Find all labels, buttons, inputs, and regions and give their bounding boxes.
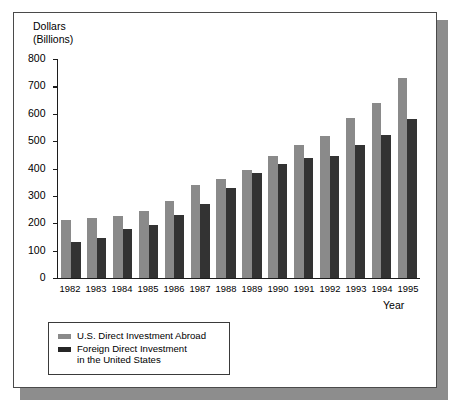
legend-label-series-1: Foreign Direct Investment in the United …: [77, 343, 187, 366]
bar-group-1983: [84, 59, 110, 278]
bar-1982-series-0: [61, 220, 71, 278]
bar-1985-series-0: [139, 211, 149, 278]
bar-1986-series-0: [165, 201, 175, 278]
bar-1982-series-1: [71, 242, 81, 278]
bar-1986-series-1: [174, 215, 184, 279]
y-axis-tick-300: 300: [53, 196, 58, 197]
y-axis-tick-label-100: 100: [28, 244, 46, 256]
x-axis-tick-label-1993: 1993: [343, 283, 369, 294]
plot-area: 0100200300400500600700800: [57, 59, 420, 279]
bar-group-1994: [368, 59, 394, 278]
bar-1987-series-1: [200, 204, 210, 278]
y-axis-tick-700: 700: [53, 86, 58, 87]
y-axis-title: Dollars(Billions): [33, 20, 73, 45]
bar-1985-series-1: [149, 225, 159, 278]
x-axis-tick-labels: 1982198319841985198619871988198919901991…: [57, 283, 421, 294]
y-axis-tick-label-500: 500: [28, 134, 46, 146]
bar-group-1993: [342, 59, 368, 278]
x-axis-tick-label-1983: 1983: [83, 283, 109, 294]
x-axis-tick-label-1994: 1994: [369, 283, 395, 294]
y-axis-tick-0: 0: [53, 278, 58, 279]
bar-1990-series-1: [278, 164, 288, 278]
y-axis-title-line2: (Billions): [33, 33, 73, 45]
x-axis-line: [57, 278, 420, 279]
bar-groups: [58, 59, 420, 278]
y-axis-tick-label-800: 800: [28, 52, 46, 64]
x-axis-tick-label-1984: 1984: [109, 283, 135, 294]
legend-swatch-icon-series-0: [58, 334, 71, 339]
bar-1993-series-0: [346, 118, 356, 278]
bar-1987-series-0: [191, 185, 201, 278]
legend-item-foreign-direct-investment-in-the-united-states: Foreign Direct Investment in the United …: [58, 343, 223, 366]
bar-1983-series-1: [97, 238, 107, 278]
x-axis-tick-label-1990: 1990: [265, 283, 291, 294]
x-axis-tick-label-1982: 1982: [57, 283, 83, 294]
bar-1991-series-1: [304, 158, 314, 278]
y-axis-tick-800: 800: [53, 59, 58, 60]
bar-1984-series-0: [113, 216, 123, 278]
bar-group-1992: [317, 59, 343, 278]
bar-1989-series-0: [242, 170, 252, 278]
y-axis-tick-400: 400: [53, 169, 58, 170]
bar-group-1990: [265, 59, 291, 278]
y-axis-tick-100: 100: [53, 251, 58, 252]
y-axis-tick-200: 200: [53, 223, 58, 224]
bar-1983-series-0: [87, 218, 97, 278]
y-axis-tick-label-400: 400: [28, 162, 46, 174]
y-axis-tick-label-700: 700: [28, 79, 46, 91]
y-axis-tick-600: 600: [53, 114, 58, 115]
bar-group-1987: [187, 59, 213, 278]
legend-label-series-0: U.S. Direct Investment Abroad: [77, 330, 206, 342]
chart-figure: Dollars(Billions) 0100200300400500600700…: [0, 0, 456, 408]
bar-1989-series-1: [252, 173, 262, 278]
y-axis-title-line1: Dollars: [33, 20, 66, 32]
bar-1991-series-0: [294, 145, 304, 278]
y-axis-tick-label-0: 0: [40, 271, 46, 283]
bar-1994-series-1: [381, 135, 391, 278]
y-axis-tick-label-300: 300: [28, 189, 46, 201]
x-axis-tick-label-1992: 1992: [317, 283, 343, 294]
bar-group-1988: [213, 59, 239, 278]
chart-legend: U.S. Direct Investment Abroad Foreign Di…: [48, 322, 230, 375]
x-axis-title: Year: [383, 299, 404, 311]
bar-1995-series-1: [407, 119, 417, 278]
bar-group-1982: [58, 59, 84, 278]
y-axis-tick-label-600: 600: [28, 107, 46, 119]
bar-group-1984: [110, 59, 136, 278]
bar-1992-series-1: [330, 156, 340, 278]
bar-1993-series-1: [355, 145, 365, 278]
x-axis-tick-label-1987: 1987: [187, 283, 213, 294]
bar-group-1995: [394, 59, 420, 278]
x-axis-tick-label-1991: 1991: [291, 283, 317, 294]
bar-1988-series-1: [226, 188, 236, 278]
y-axis-tick-label-200: 200: [28, 216, 46, 228]
bar-group-1985: [136, 59, 162, 278]
legend-item-us-direct-investment-abroad: U.S. Direct Investment Abroad: [58, 330, 223, 342]
bar-group-1991: [291, 59, 317, 278]
bar-1995-series-0: [398, 78, 408, 278]
x-axis-tick-label-1988: 1988: [213, 283, 239, 294]
x-axis-tick-label-1985: 1985: [135, 283, 161, 294]
legend-swatch-icon-series-1: [58, 347, 71, 352]
bar-group-1986: [161, 59, 187, 278]
bar-1990-series-0: [268, 156, 278, 278]
x-axis-tick-label-1995: 1995: [395, 283, 421, 294]
bar-1994-series-0: [372, 103, 382, 278]
bar-1992-series-0: [320, 136, 330, 278]
x-axis-tick-label-1989: 1989: [239, 283, 265, 294]
y-axis-tick-500: 500: [53, 141, 58, 142]
bar-1988-series-0: [216, 179, 226, 278]
bar-1984-series-1: [123, 229, 133, 278]
bar-group-1989: [239, 59, 265, 278]
x-axis-tick-label-1986: 1986: [161, 283, 187, 294]
